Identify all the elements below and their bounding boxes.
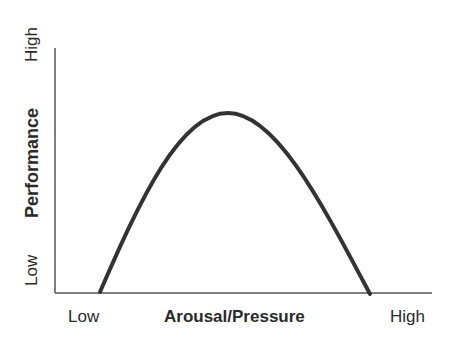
x-axis-title: Arousal/Pressure xyxy=(164,307,305,327)
chart-canvas xyxy=(0,0,459,344)
y-tick-low: Low xyxy=(22,255,42,286)
x-tick-high: High xyxy=(390,307,425,327)
y-tick-high: High xyxy=(22,27,42,62)
y-axis-title: Performance xyxy=(22,108,43,218)
performance-curve xyxy=(100,113,370,294)
x-tick-low: Low xyxy=(68,307,99,327)
